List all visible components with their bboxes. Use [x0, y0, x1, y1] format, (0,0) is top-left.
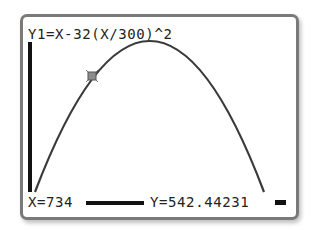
function-label: Y1=X-32(X/300)^2 [28, 26, 172, 42]
status-end-marker [275, 200, 286, 205]
y-axis [28, 42, 32, 192]
trace-x-value: X=734 [28, 193, 73, 211]
status-separator-bar [86, 201, 144, 205]
calculator-screen: Y1=X-32(X/300)^2 X=734 Y=542.44231 [0, 0, 315, 230]
square-cursor-icon[interactable] [86, 70, 98, 82]
trace-status-bar: X=734 Y=542.44231 [28, 193, 290, 211]
trace-y-value: Y=542.44231 [150, 193, 249, 211]
function-curve [35, 41, 264, 192]
